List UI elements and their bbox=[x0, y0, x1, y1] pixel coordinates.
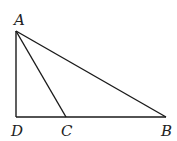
label-point-c: C bbox=[61, 122, 73, 140]
segment-ac bbox=[16, 31, 66, 117]
label-point-a: A bbox=[12, 11, 25, 29]
label-point-d: D bbox=[10, 122, 23, 140]
segment-ab bbox=[16, 31, 166, 117]
label-point-b: B bbox=[160, 122, 172, 140]
triangle-diagram: A D C B bbox=[0, 0, 177, 141]
